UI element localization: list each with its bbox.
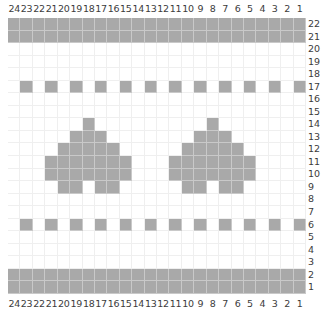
empty-stitch-cell	[269, 256, 281, 269]
empty-stitch-cell	[256, 206, 268, 219]
filled-stitch-cell	[70, 269, 82, 282]
empty-stitch-cell	[70, 56, 82, 69]
column-label: 5	[244, 2, 256, 16]
column-label: 24	[8, 297, 20, 311]
filled-stitch-cell	[145, 81, 157, 94]
filled-stitch-cell	[45, 281, 57, 294]
empty-stitch-cell	[120, 143, 132, 156]
filled-stitch-cell	[194, 269, 206, 282]
empty-stitch-cell	[132, 131, 144, 144]
filled-stitch-cell	[95, 219, 107, 232]
empty-stitch-cell	[58, 56, 70, 69]
empty-stitch-cell	[294, 181, 306, 194]
empty-stitch-cell	[58, 244, 70, 257]
empty-stitch-cell	[256, 68, 268, 81]
column-label: 17	[95, 2, 107, 16]
empty-stitch-cell	[132, 194, 144, 207]
filled-stitch-cell	[45, 156, 57, 169]
empty-stitch-cell	[157, 206, 169, 219]
empty-stitch-cell	[207, 256, 219, 269]
filled-stitch-cell	[132, 18, 144, 31]
empty-stitch-cell	[33, 156, 45, 169]
row-label: 7	[308, 206, 323, 219]
empty-stitch-cell	[33, 219, 45, 232]
empty-stitch-cell	[256, 131, 268, 144]
empty-stitch-cell	[244, 68, 256, 81]
empty-stitch-cell	[107, 106, 119, 119]
filled-stitch-cell	[70, 281, 82, 294]
empty-stitch-cell	[244, 131, 256, 144]
filled-stitch-cell	[169, 18, 181, 31]
filled-stitch-cell	[120, 219, 132, 232]
empty-stitch-cell	[107, 56, 119, 69]
column-label: 4	[256, 297, 268, 311]
empty-stitch-cell	[145, 181, 157, 194]
filled-stitch-cell	[83, 156, 95, 169]
empty-stitch-cell	[107, 131, 119, 144]
empty-stitch-cell	[256, 143, 268, 156]
empty-stitch-cell	[120, 106, 132, 119]
filled-stitch-cell	[120, 156, 132, 169]
filled-stitch-cell	[219, 31, 231, 44]
empty-stitch-cell	[95, 244, 107, 257]
filled-stitch-cell	[219, 143, 231, 156]
filled-stitch-cell	[132, 269, 144, 282]
empty-stitch-cell	[45, 256, 57, 269]
empty-stitch-cell	[207, 56, 219, 69]
column-labels-bottom: 242322212019181716151413121110987654321	[8, 297, 306, 311]
filled-stitch-cell	[157, 269, 169, 282]
empty-stitch-cell	[294, 118, 306, 131]
empty-stitch-cell	[169, 56, 181, 69]
empty-stitch-cell	[107, 194, 119, 207]
filled-stitch-cell	[194, 18, 206, 31]
filled-stitch-cell	[20, 281, 32, 294]
empty-stitch-cell	[20, 206, 32, 219]
empty-stitch-cell	[132, 81, 144, 94]
empty-stitch-cell	[169, 181, 181, 194]
filled-stitch-cell	[219, 281, 231, 294]
empty-stitch-cell	[95, 93, 107, 106]
empty-stitch-cell	[169, 206, 181, 219]
row-label: 16	[308, 93, 323, 106]
empty-stitch-cell	[232, 231, 244, 244]
column-label: 19	[70, 2, 82, 16]
empty-stitch-cell	[20, 93, 32, 106]
empty-stitch-cell	[207, 231, 219, 244]
empty-stitch-cell	[95, 56, 107, 69]
empty-stitch-cell	[169, 231, 181, 244]
empty-stitch-cell	[58, 206, 70, 219]
empty-stitch-cell	[132, 106, 144, 119]
filled-stitch-cell	[219, 131, 231, 144]
filled-stitch-cell	[83, 281, 95, 294]
filled-stitch-cell	[107, 156, 119, 169]
empty-stitch-cell	[207, 43, 219, 56]
filled-stitch-cell	[207, 143, 219, 156]
filled-stitch-cell	[95, 31, 107, 44]
empty-stitch-cell	[20, 231, 32, 244]
empty-stitch-cell	[120, 118, 132, 131]
empty-stitch-cell	[157, 143, 169, 156]
column-label: 18	[82, 2, 94, 16]
empty-stitch-cell	[232, 56, 244, 69]
filled-stitch-cell	[157, 18, 169, 31]
filled-stitch-cell	[83, 169, 95, 182]
filled-stitch-cell	[107, 281, 119, 294]
filled-stitch-cell	[95, 281, 107, 294]
filled-stitch-cell	[58, 281, 70, 294]
empty-stitch-cell	[256, 194, 268, 207]
empty-stitch-cell	[45, 143, 57, 156]
empty-stitch-cell	[20, 143, 32, 156]
filled-stitch-cell	[157, 281, 169, 294]
column-label: 17	[95, 297, 107, 311]
row-label: 2	[308, 269, 323, 282]
filled-stitch-cell	[207, 18, 219, 31]
empty-stitch-cell	[20, 256, 32, 269]
row-label: 5	[308, 231, 323, 244]
empty-stitch-cell	[145, 43, 157, 56]
filled-stitch-cell	[70, 18, 82, 31]
column-label: 16	[107, 2, 119, 16]
empty-stitch-cell	[256, 81, 268, 94]
column-label: 7	[219, 297, 231, 311]
column-label: 23	[20, 2, 32, 16]
empty-stitch-cell	[33, 81, 45, 94]
